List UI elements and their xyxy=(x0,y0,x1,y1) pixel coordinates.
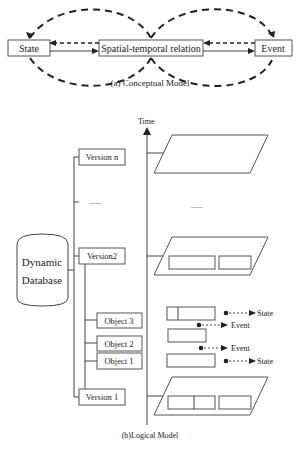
object1-feature xyxy=(167,354,215,367)
object2-label: Object 2 xyxy=(104,339,133,349)
annotation-state-2: State xyxy=(224,357,274,366)
event-label: Event xyxy=(261,43,285,54)
layer2-feature-a xyxy=(169,256,215,269)
object2-node: Object 2 xyxy=(97,336,142,351)
time-axis-label: Time xyxy=(138,117,155,126)
state-label: State xyxy=(19,43,40,54)
dynamic-database: Dynamic Database xyxy=(17,234,68,306)
time-axis-arrowhead xyxy=(143,127,151,135)
layer1-feature-a xyxy=(168,396,215,409)
event-node: Event xyxy=(255,40,292,56)
relation-label: Spatial-temporal relation xyxy=(101,43,201,54)
version-n-node: Version n xyxy=(79,149,125,165)
logical-model: Time Dynamic Database Version n ...... V… xyxy=(17,117,273,440)
versions-ellipsis: ...... xyxy=(89,197,101,206)
annotation-state-1: State xyxy=(224,309,274,318)
object1-node: Object 1 xyxy=(97,353,142,369)
version2-node: Version2 xyxy=(79,248,125,264)
object3-node: Object 3 xyxy=(97,313,142,328)
arrowhead xyxy=(92,48,99,54)
annotation-event-2: Event xyxy=(199,344,251,353)
left-upper-loop xyxy=(30,10,151,39)
layer1-feature-b xyxy=(219,396,251,409)
caption-conceptual-model: (a) Conceptual Model xyxy=(111,78,190,88)
version1-label: Version 1 xyxy=(86,392,118,402)
diagram-canvas: State Spatial-temporal relation Event (a… xyxy=(0,0,299,455)
layer2-feature-b xyxy=(219,256,251,269)
version2-label: Version2 xyxy=(87,251,117,261)
state-node: State xyxy=(8,40,50,56)
object2-feature xyxy=(168,329,206,342)
annotation-label: Event xyxy=(231,321,250,330)
layer-version-n xyxy=(154,135,268,173)
conceptual-model: State Spatial-temporal relation Event (a… xyxy=(8,9,292,88)
annotation-label: Event xyxy=(231,344,250,353)
layers-ellipsis: ...... xyxy=(191,201,203,210)
object3-label: Object 3 xyxy=(104,316,133,326)
annotation-label: State xyxy=(257,357,273,366)
database-label-line1: Dynamic xyxy=(22,256,62,268)
database-label-line2: Database xyxy=(22,274,62,286)
arrowhead xyxy=(203,40,210,46)
object3-feature xyxy=(167,307,215,320)
caption-logical-model: (b)Logical Model xyxy=(122,431,179,440)
right-upper-loop xyxy=(151,9,272,38)
version-n-label: Version n xyxy=(86,152,119,162)
arrowhead xyxy=(248,48,255,54)
annotation-label: State xyxy=(257,309,273,318)
relation-node: Spatial-temporal relation xyxy=(99,40,203,56)
version1-node: Version 1 xyxy=(79,389,125,405)
object1-label: Object 1 xyxy=(104,356,133,366)
